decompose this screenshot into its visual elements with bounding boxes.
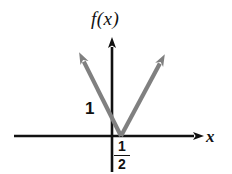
x-axis-label: x — [206, 128, 215, 145]
function-graph-figure: f(x) x 1 1 2 — [0, 0, 232, 174]
fraction-denominator: 2 — [113, 157, 131, 172]
fraction-numerator: 1 — [113, 139, 131, 154]
function-axis-label: f(x) — [91, 9, 119, 28]
vertex-fraction-label: 1 2 — [113, 139, 131, 171]
y-intercept-label: 1 — [85, 100, 94, 117]
curve-right-arm — [121, 63, 160, 136]
